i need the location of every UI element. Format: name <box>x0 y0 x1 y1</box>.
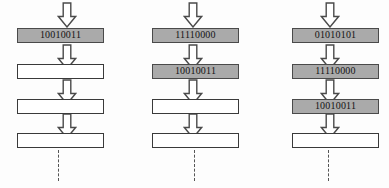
continuation-line <box>328 150 329 181</box>
down-arrow-icon <box>320 2 340 28</box>
stage-box: 01010101 <box>292 28 379 43</box>
stage-value-label: 01010101 <box>293 29 378 41</box>
diagram-canvas: 1001001111110000100100110101010111110000… <box>0 0 389 188</box>
stage-value-label: 11110000 <box>293 65 378 77</box>
stage-value-label: 10010011 <box>293 100 378 112</box>
stage-box: 11110000 <box>292 64 379 79</box>
stage-box <box>292 133 379 148</box>
stage-box: 10010011 <box>292 99 379 114</box>
column-3: 010101011111000010010011 <box>0 0 389 188</box>
